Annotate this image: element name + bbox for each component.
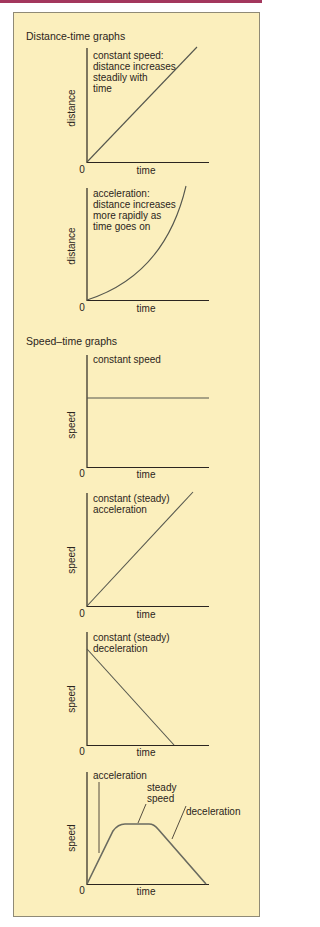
y-axis-label: distance bbox=[66, 227, 77, 265]
x-axis-label: time bbox=[137, 609, 156, 620]
graph-distance-constant-speed: constant speed: distance increases stead… bbox=[66, 47, 209, 176]
y-axis-label: speed bbox=[66, 685, 77, 712]
x-axis-label: time bbox=[137, 303, 156, 314]
caption-line: constant speed: bbox=[93, 50, 164, 61]
graph-speed-deceleration: constant (steady) deceleration speed tim… bbox=[66, 632, 209, 758]
graph-speed-journey: acceleration steady speed deceleration s… bbox=[66, 770, 240, 897]
x-axis-label: time bbox=[137, 747, 156, 758]
data-line bbox=[87, 649, 174, 745]
caption-line: constant speed bbox=[93, 354, 161, 365]
caption-line: constant (steady) bbox=[93, 493, 170, 504]
y-axis-label: distance bbox=[66, 89, 77, 127]
caption-line: acceleration bbox=[93, 504, 147, 515]
caption-line: acceleration: bbox=[93, 188, 150, 199]
y-axis-label: speed bbox=[66, 546, 77, 573]
caption-line: steadily with bbox=[93, 72, 147, 83]
leader-line-steady bbox=[138, 804, 146, 823]
origin-label: 0 bbox=[79, 746, 85, 757]
x-axis-label: time bbox=[137, 886, 156, 897]
origin-label: 0 bbox=[79, 164, 85, 175]
annotation-deceleration: deceleration bbox=[186, 806, 240, 817]
caption-line: constant (steady) bbox=[93, 632, 170, 643]
y-axis-label: speed bbox=[66, 824, 77, 851]
x-axis-label: time bbox=[137, 165, 156, 176]
origin-label: 0 bbox=[79, 608, 85, 619]
caption-line: more rapidly as bbox=[93, 210, 161, 221]
graph-speed-acceleration: constant (steady) acceleration speed tim… bbox=[66, 492, 209, 620]
caption-line: distance increases bbox=[93, 199, 176, 210]
y-axis-label: speed bbox=[66, 411, 77, 438]
annotation-acceleration: acceleration bbox=[93, 770, 147, 781]
annotation-speed: speed bbox=[147, 793, 174, 804]
caption-line: time bbox=[93, 83, 112, 94]
caption-line: deceleration bbox=[93, 643, 147, 654]
leader-line-deceleration bbox=[172, 806, 186, 839]
annotation-steady: steady bbox=[147, 782, 176, 793]
caption-line: time goes on bbox=[93, 221, 150, 232]
data-curve bbox=[87, 824, 206, 884]
origin-label: 0 bbox=[79, 885, 85, 896]
origin-label: 0 bbox=[79, 302, 85, 313]
origin-label: 0 bbox=[79, 468, 85, 479]
graph-speed-constant: constant speed speed time 0 bbox=[66, 354, 209, 480]
x-axis-label: time bbox=[137, 469, 156, 480]
caption-line: distance increases bbox=[93, 61, 176, 72]
graph-distance-acceleration: acceleration: distance increases more ra… bbox=[66, 186, 209, 314]
